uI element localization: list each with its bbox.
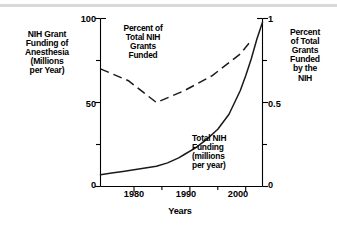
x-axis-tick-label-1980: 1980 <box>117 189 151 199</box>
annotation-total-nih-funding: Total NIH Funding (millions per year) <box>192 134 264 170</box>
y-axis-right-title-line-6: NIH <box>276 74 334 83</box>
chart-figure: NIH Grant Funding of Anesthesia (Million… <box>0 0 337 232</box>
y-axis-right-tick-label-0-5: 0.5 <box>268 99 288 109</box>
x-axis-tick-label-2000: 2000 <box>221 189 255 199</box>
annotation-percent-line-4: Funded <box>104 51 182 60</box>
annotation-total-line-4: per year) <box>192 161 264 170</box>
y-axis-left-tick-label-0: 0 <box>72 180 96 190</box>
y-axis-right-tick-label-0: 0 <box>268 180 288 190</box>
y-axis-left-title: NIH Grant Funding of Anesthesia (Million… <box>4 30 90 76</box>
y-axis-right-tick-label-1: 1 <box>268 14 288 24</box>
x-axis-title: Years <box>140 207 220 217</box>
x-axis-tick-label-1990: 1990 <box>169 189 203 199</box>
y-axis-right-title: Percent of Total Grants Funded by the NI… <box>276 28 334 83</box>
annotation-percent-grants-funded: Percent of Total NIH Grants Funded <box>104 24 182 60</box>
y-axis-left-tick-label-100: 100 <box>72 14 96 24</box>
y-axis-left-title-line-5: per Year) <box>4 66 90 75</box>
y-axis-left-tick-label-50: 50 <box>72 99 96 109</box>
